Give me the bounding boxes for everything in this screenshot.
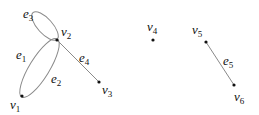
- vertex-v1: [20, 94, 23, 97]
- edges: [13, 8, 234, 103]
- vertices: [20, 38, 235, 97]
- edge-e1-e2-ellipse: [13, 34, 66, 102]
- vertex-v2: [55, 38, 58, 41]
- label-v5: v5: [192, 22, 203, 39]
- vertex-v6: [232, 83, 235, 86]
- label-v6: v6: [234, 89, 245, 106]
- edge-e4: [57, 40, 99, 82]
- graph-diagram: v1 v2 v3 v4 v5 v6 e1 e2 e3 e4 e5: [0, 0, 259, 115]
- label-v2: v2: [61, 24, 71, 41]
- vertex-labels: v1 v2 v3 v4 v5 v6: [10, 19, 245, 114]
- label-e2: e2: [51, 71, 61, 88]
- vertex-v4: [151, 38, 154, 41]
- label-v4: v4: [147, 19, 158, 36]
- label-e1: e1: [16, 47, 26, 64]
- label-v3: v3: [102, 82, 113, 99]
- vertex-v3: [97, 80, 100, 83]
- label-e3: e3: [23, 6, 34, 23]
- label-e5: e5: [223, 53, 234, 70]
- label-v1: v1: [10, 97, 20, 114]
- vertex-v5: [204, 40, 207, 43]
- label-e4: e4: [79, 50, 90, 67]
